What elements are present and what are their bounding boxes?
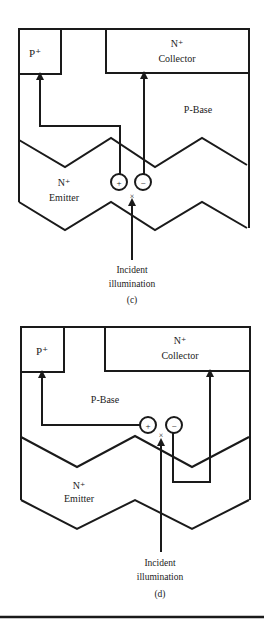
figure-d-labels: P⁺ N⁺ Collector P-Base N⁺ Emitter + − × …	[36, 335, 199, 600]
illumination-label-1: Incident	[144, 558, 175, 568]
figure-c	[19, 29, 249, 260]
emitter-label: Emitter	[49, 192, 80, 203]
minus-sign: −	[140, 178, 145, 188]
emitter-sup-label: N⁺	[73, 480, 86, 491]
illumination-label-2: illumination	[137, 572, 184, 582]
minus-sign: −	[171, 421, 176, 431]
base-label: P-Base	[184, 104, 213, 115]
figure-d	[21, 327, 250, 552]
illumination-label-1: Incident	[116, 265, 147, 275]
caption-c: (c)	[127, 295, 138, 306]
emitter-label: Emitter	[64, 493, 95, 504]
base-emitter-junction	[21, 436, 249, 467]
plus-sign: +	[116, 178, 121, 188]
collector-region	[105, 327, 250, 371]
collector-region	[106, 29, 249, 73]
base-emitter-junction	[19, 138, 247, 167]
generation-point-icon: ×	[130, 192, 135, 201]
illumination-label-2: illumination	[109, 279, 156, 289]
device-outline	[21, 327, 250, 500]
collector-sup-label: N⁺	[171, 38, 184, 49]
caption-d: (d)	[154, 589, 165, 600]
collector-label: Collector	[161, 350, 199, 361]
emitter-sup-label: N⁺	[58, 177, 71, 188]
p-plus-label: P⁺	[36, 345, 48, 357]
plus-sign: +	[145, 421, 150, 431]
collector-sup-label: N⁺	[174, 335, 187, 346]
emitter-bottom-edge	[21, 500, 249, 529]
base-label: P-Base	[91, 394, 120, 405]
collector-label: Collector	[158, 53, 196, 64]
p-plus-label: P⁺	[29, 47, 41, 59]
phototransistor-diagrams: P⁺ N⁺ Collector P-Base N⁺ Emitter + − × …	[0, 0, 264, 623]
generation-point-icon: ×	[159, 431, 164, 440]
